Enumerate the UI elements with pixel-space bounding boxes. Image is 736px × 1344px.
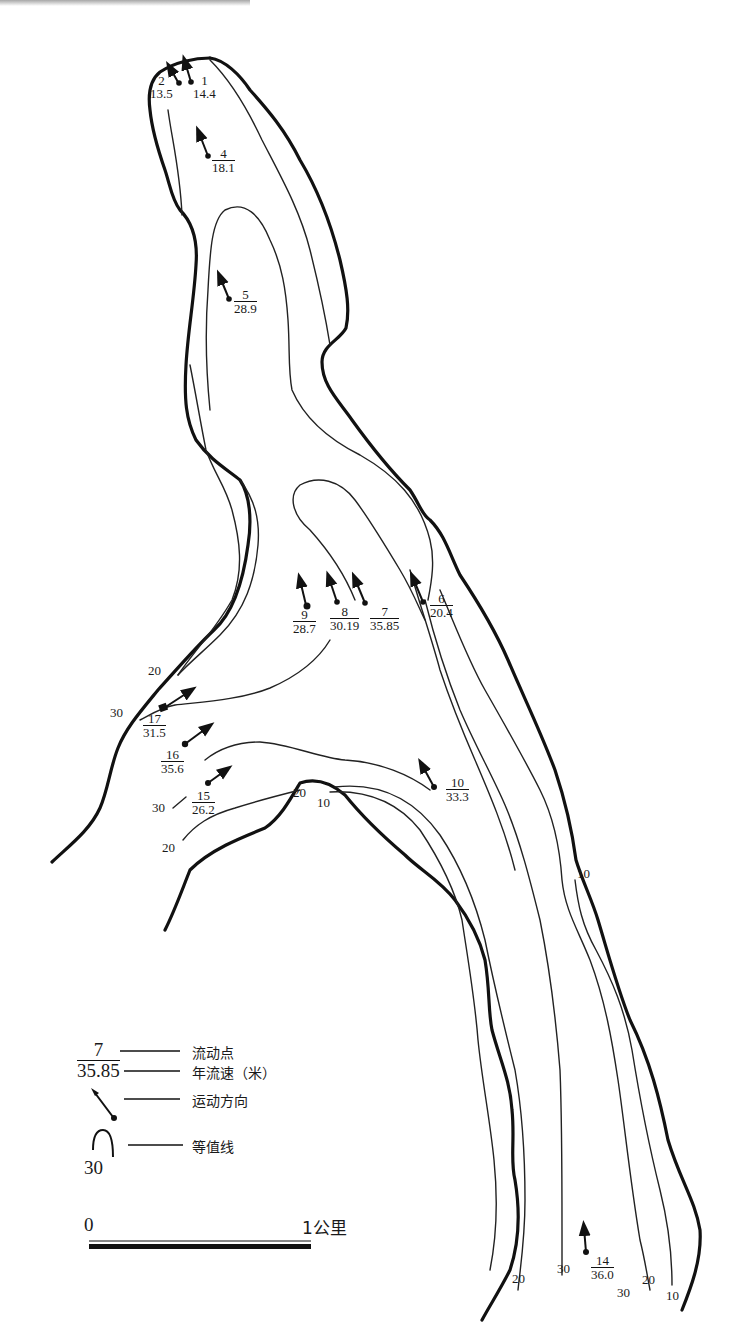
river-map	[0, 0, 736, 1344]
isoline-right-upper	[210, 60, 330, 345]
legend-isoline: 等值线	[192, 1136, 234, 1156]
legend-annual-speed: 年流速（米）	[192, 1062, 276, 1082]
isoline-label-10-spit: 10	[317, 796, 330, 810]
flow-point-16: 16 35.6	[161, 748, 184, 775]
isoline-20-left	[178, 480, 258, 675]
legend-flow-point: 流动点	[192, 1042, 234, 1062]
isoline-label-30-left: 30	[110, 706, 123, 720]
isoline-label-10-right: 10	[577, 867, 590, 881]
isoline-inner-loop	[293, 480, 425, 620]
flow-point-2: 2 13.5	[150, 74, 173, 100]
isoline-label-10-bottom: 10	[666, 1289, 679, 1303]
flow-point-15: 15 26.2	[192, 789, 215, 816]
isoline-label-20-bay: 20	[162, 841, 175, 855]
isoline-channel-6	[410, 570, 515, 870]
flow-point-9: 9 28.7	[293, 608, 316, 635]
flow-point-6: 6 20.4	[430, 592, 453, 619]
flow-point-1: 1 14.4	[193, 74, 216, 100]
isoline-channel-5	[575, 880, 672, 1285]
isoline-label-20-bottom-b: 20	[642, 1273, 655, 1287]
legend-direction: 运动方向	[192, 1090, 248, 1110]
isoline-label-30-bay: 30	[152, 801, 165, 815]
flow-point-10: 10 33.3	[446, 776, 469, 803]
legend-sample-fraction: 7 35.85	[77, 1040, 120, 1081]
isoline-label-20-left: 20	[148, 664, 161, 678]
isoline-label-30-bottom-b: 30	[617, 1286, 630, 1300]
flow-point-5: 5 28.9	[234, 288, 257, 315]
isoline-channel-3	[425, 600, 562, 1275]
isoline-bay-30-dash	[173, 797, 186, 808]
right-bank	[210, 58, 700, 1310]
isoline-label-20-bottom-a: 20	[512, 1272, 525, 1286]
flow-point-7: 7 35.85	[370, 605, 399, 632]
flow-point-14: 14 36.0	[591, 1254, 614, 1281]
flow-point-4: 4 18.1	[212, 147, 235, 174]
legend-isoline-sample-value: 30	[84, 1157, 103, 1179]
isoline-label-30-bottom-a: 30	[557, 1262, 570, 1276]
scale-end: 1公里	[302, 1214, 347, 1239]
flow-point-17: 17 31.5	[143, 712, 166, 739]
scale-start: 0	[84, 1214, 94, 1236]
isoline-label-20-spit: 20	[293, 786, 306, 800]
left-bank	[52, 58, 250, 862]
flow-point-8: 8 30.19	[330, 605, 359, 632]
isoline-channel-4	[440, 590, 650, 1290]
